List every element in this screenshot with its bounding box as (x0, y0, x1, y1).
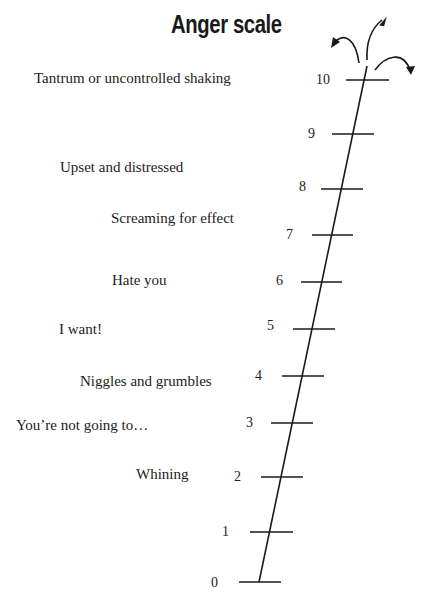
level-number-1: 1 (222, 525, 229, 539)
level-number-10: 10 (316, 73, 330, 87)
level-label-4: Niggles and grumbles (80, 374, 212, 389)
tick-marks (239, 80, 389, 582)
level-number-2: 2 (234, 470, 241, 484)
level-number-0: 0 (211, 576, 218, 590)
level-label-7: Screaming for effect (111, 211, 234, 226)
arrow-heads (331, 16, 415, 75)
explosion-arrows-icon (335, 20, 410, 70)
level-label-10: Tantrum or uncontrolled shaking (34, 71, 231, 86)
scale-axis-line (259, 66, 367, 582)
level-label-6: Hate you (112, 273, 167, 288)
anger-scale-axis (0, 0, 432, 613)
level-label-3: You’re not going to… (16, 418, 148, 433)
level-number-4: 4 (255, 369, 262, 383)
level-label-5: I want! (59, 322, 102, 337)
level-label-8: Upset and distressed (60, 160, 183, 175)
level-number-7: 7 (286, 228, 293, 242)
level-number-3: 3 (246, 416, 253, 430)
level-number-9: 9 (308, 127, 315, 141)
level-number-8: 8 (299, 180, 306, 194)
level-label-2: Whining (136, 467, 189, 482)
level-number-6: 6 (276, 274, 283, 288)
level-number-5: 5 (267, 319, 274, 333)
